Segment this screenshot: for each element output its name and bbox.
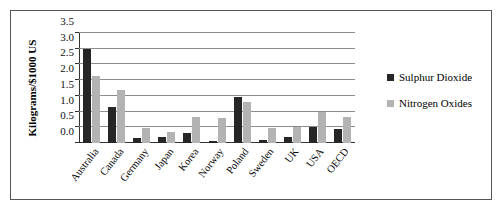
bar-group — [129, 33, 154, 143]
bar-group — [280, 33, 305, 143]
x-axis-label-cell: Sweden — [255, 144, 280, 196]
y-tick-label: 1.5 — [60, 79, 74, 90]
bar — [243, 102, 251, 143]
y-axis-title-label: Kilograms/$1000 US — [26, 40, 38, 137]
bar — [142, 128, 150, 143]
bar — [108, 107, 116, 143]
bar — [309, 127, 317, 143]
bar — [293, 127, 301, 143]
legend-label: Sulphur Dioxide — [399, 71, 472, 83]
x-axis-label: Japan — [152, 146, 175, 172]
bar — [183, 133, 191, 143]
chart-frame: Kilograms/$1000 US 0.00.51.01.52.02.53.0… — [10, 10, 492, 200]
bar — [343, 117, 351, 143]
y-tick-label: 0.5 — [60, 111, 74, 122]
bar-group — [154, 33, 179, 143]
bar — [83, 49, 91, 143]
legend-swatch — [387, 74, 394, 81]
x-axis-label-cell: OECD — [330, 144, 355, 196]
x-axis-label: UK — [283, 146, 301, 165]
x-axis-label-cell: Japan — [154, 144, 179, 196]
bar — [92, 76, 100, 143]
bar — [234, 97, 242, 143]
bar — [192, 117, 200, 143]
bar — [117, 90, 125, 143]
bar — [284, 137, 292, 143]
x-axis-label: Korea — [176, 146, 200, 173]
bar — [334, 129, 342, 143]
legend-label: Nitrogen Oxides — [399, 97, 472, 109]
legend-item: Sulphur Dioxide — [387, 71, 487, 83]
legend-swatch — [387, 100, 394, 107]
y-tick-label: 0.0 — [60, 126, 74, 137]
plot-area: 0.00.51.01.52.02.53.03.5 — [79, 33, 355, 143]
bar-group — [79, 33, 104, 143]
x-axis-label-cell: UK — [280, 144, 305, 196]
chart-legend: Sulphur DioxideNitrogen Oxides — [387, 71, 487, 123]
y-tick-label: 3.5 — [60, 16, 74, 27]
bar — [133, 138, 141, 143]
y-tick-label: 3.0 — [60, 32, 74, 43]
y-tick-label: 1.0 — [60, 95, 74, 106]
y-tick-label: 2.0 — [60, 63, 74, 74]
bar — [259, 140, 267, 143]
bar-group — [255, 33, 280, 143]
x-axis-label: Australia — [68, 146, 100, 183]
x-axis-labels: AustraliaCanadaGermanyJapanKoreaNorwayPo… — [79, 144, 355, 196]
bar-group — [230, 33, 255, 143]
bar — [167, 132, 175, 143]
bar-groups — [79, 33, 355, 143]
bar-group — [104, 33, 129, 143]
bar — [209, 141, 217, 144]
bar — [318, 112, 326, 143]
y-tick-label: 2.5 — [60, 48, 74, 59]
bar-group — [204, 33, 229, 143]
y-axis-title: Kilograms/$1000 US — [25, 33, 39, 143]
x-axis-label: USA — [304, 146, 326, 169]
legend-item: Nitrogen Oxides — [387, 97, 487, 109]
bar-group — [179, 33, 204, 143]
bar-group — [305, 33, 330, 143]
bar — [218, 118, 226, 143]
bar — [158, 137, 166, 143]
bar — [268, 128, 276, 143]
bar-group — [330, 33, 355, 143]
x-axis-label-cell: Germany — [129, 144, 154, 196]
